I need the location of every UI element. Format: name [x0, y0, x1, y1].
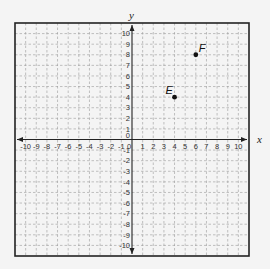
point-f: [193, 52, 198, 57]
x-tick-label: 7: [204, 142, 208, 151]
y-tick-label: 8: [126, 50, 130, 59]
y-tick-label: -3: [123, 167, 130, 176]
x-tick-label: 6: [194, 142, 198, 151]
x-tick-label: 1: [141, 142, 145, 151]
y-axis-arrow-up-icon: [130, 25, 135, 31]
x-axis-label: x: [256, 133, 262, 145]
x-tick-label: 4: [172, 142, 176, 151]
y-tick-label: -2: [123, 156, 130, 165]
axes: [17, 25, 247, 254]
x-tick-label: 2: [151, 142, 155, 151]
x-tick-label: -2: [107, 142, 114, 151]
y-tick-label: 10: [122, 29, 130, 38]
y-tick-label: 5: [126, 82, 130, 91]
y-tick-label: 4: [126, 93, 130, 102]
y-axis-arrow-down-icon: [130, 248, 135, 254]
x-tick-label: 10: [234, 142, 242, 151]
data-points: EF: [166, 42, 207, 100]
x-tick-label: -4: [86, 142, 93, 151]
y-tick-label: 6: [126, 72, 130, 81]
coordinate-plane: -10-9-8-7-6-5-4-3-2-1012345678910-10-9-8…: [0, 0, 270, 269]
y-tick-label: -9: [123, 231, 130, 240]
y-tick-label: -4: [123, 178, 130, 187]
y-tick-label: 2: [126, 114, 130, 123]
x-tick-label: -7: [54, 142, 61, 151]
x-tick-label: -3: [97, 142, 104, 151]
x-tick-label: 9: [226, 142, 230, 151]
point-label-f: F: [199, 42, 207, 54]
x-tick-label: -9: [33, 142, 40, 151]
y-tick-label: 9: [126, 40, 130, 49]
x-tick-label: -5: [75, 142, 82, 151]
y-tick-label: -5: [123, 188, 130, 197]
x-tick-label: -10: [20, 142, 31, 151]
x-tick-label: -6: [65, 142, 72, 151]
y-tick-label: -7: [123, 209, 130, 218]
x-axis-arrow-right-icon: [241, 137, 247, 142]
y-tick-label: 7: [126, 61, 130, 70]
x-tick-label: -8: [44, 142, 51, 151]
x-tick-label: 3: [162, 142, 166, 151]
y-tick-label: -10: [119, 241, 130, 250]
x-tick-label: 8: [215, 142, 219, 151]
y-tick-label: -8: [123, 220, 130, 229]
origin-label: 0: [126, 131, 130, 140]
point-label-e: E: [166, 84, 174, 96]
y-tick-label: -6: [123, 199, 130, 208]
x-tick-label: 5: [183, 142, 187, 151]
y-tick-label: 3: [126, 103, 130, 112]
y-axis-label: y: [128, 9, 134, 21]
y-tick-label: -1: [123, 146, 130, 155]
